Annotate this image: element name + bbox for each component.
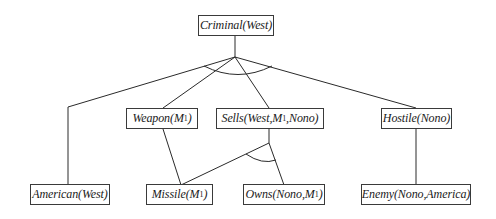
node-american-west: American(West) (30, 184, 110, 205)
edge-sells-missile (181, 143, 269, 185)
node-label: Enemy (362, 187, 394, 202)
node-owns-nono-m1: Owns(Nono,M1) (243, 184, 325, 205)
node-criminal-west: Criminal(West) (198, 15, 274, 36)
and-arc-criminal (204, 66, 272, 75)
node-weapon-m1: Weapon(M1) (126, 108, 198, 129)
node-label: Missile (152, 187, 186, 202)
node-label: Weapon (132, 111, 170, 126)
node-label: Sells (221, 111, 243, 126)
node-label: Hostile (383, 111, 417, 126)
node-label: Criminal (200, 18, 243, 33)
and-arc-sells (246, 154, 276, 162)
node-sells-west-m1-nono: Sells(West,M1,Nono) (216, 108, 324, 129)
node-label: American (32, 187, 78, 202)
node-missile-m1: Missile(M1) (146, 184, 213, 205)
proof-tree-diagram: Criminal(West) Weapon(M1) Sells(West,M1,… (0, 0, 496, 219)
edge-sells-owns (269, 143, 284, 185)
node-enemy-nono-america: Enemy(Nono,America) (361, 184, 471, 205)
edge-criminal-weapon (163, 57, 235, 108)
edge-weapon-missile (163, 129, 181, 185)
edge-criminal-hostile (235, 57, 416, 108)
node-label: Owns (245, 187, 272, 202)
node-hostile-nono: Hostile(Nono) (381, 108, 452, 129)
